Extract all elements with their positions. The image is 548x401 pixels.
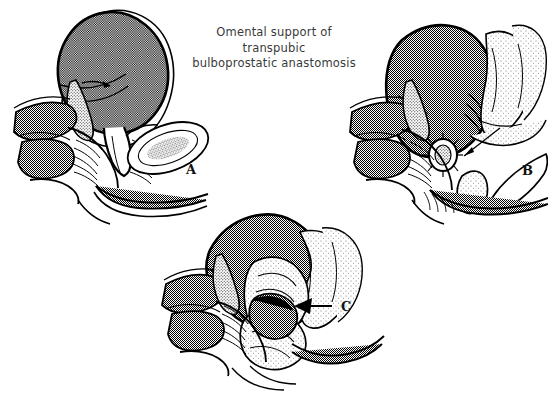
medical-illustration-figure: Omental support of transpubic bulboprost… <box>0 0 548 401</box>
panel-label-c: C <box>341 299 352 314</box>
panel-b-anastomosis-ring <box>423 133 463 177</box>
figure-title: Omental support of transpubic bulboprost… <box>174 25 374 72</box>
figure-title-line-2: transpubic <box>174 41 374 57</box>
figure-title-line-3: bulboprostatic anastomosis <box>174 56 374 72</box>
panel-label-b: B <box>522 163 533 178</box>
figure-title-line-1: Omental support of <box>174 25 374 41</box>
panel-label-a: A <box>186 162 196 177</box>
